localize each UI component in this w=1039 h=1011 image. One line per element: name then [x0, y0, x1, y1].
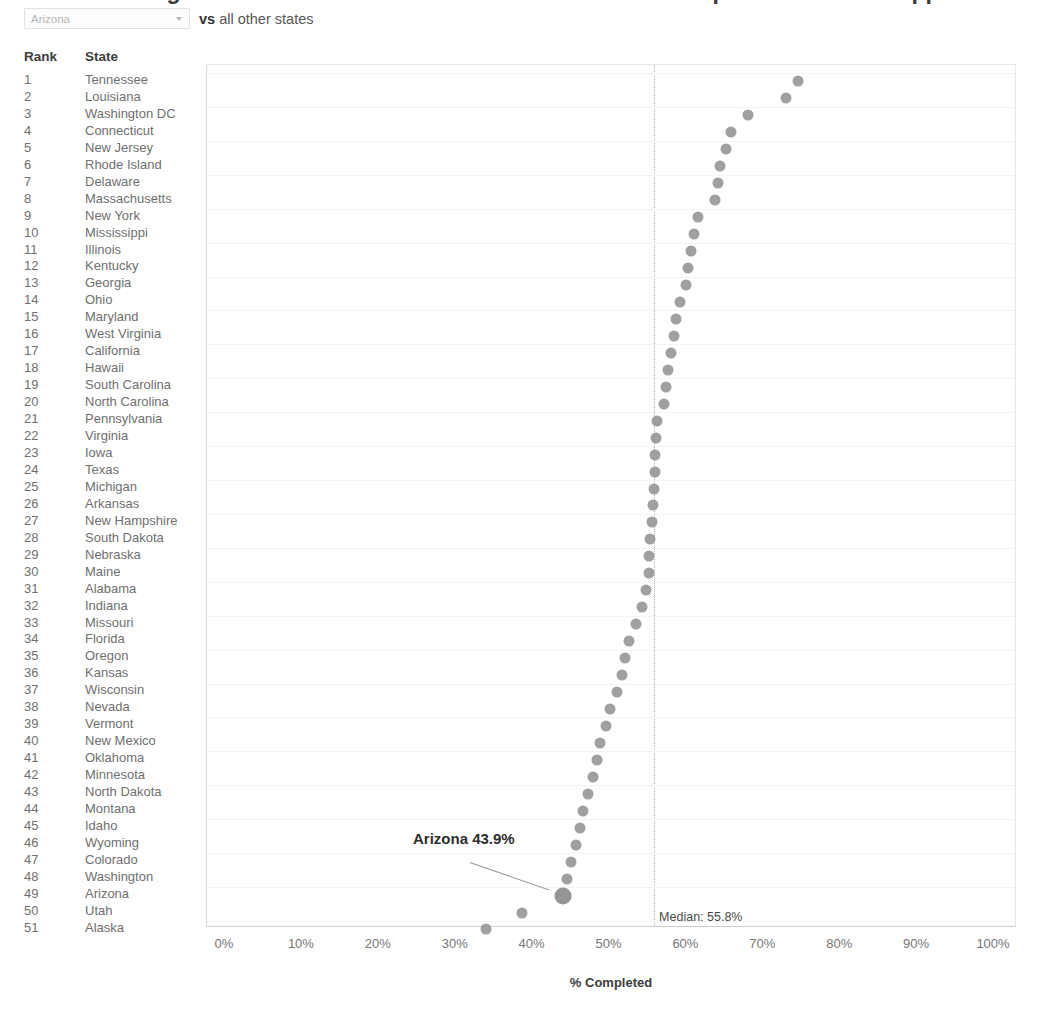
data-point[interactable]	[780, 93, 791, 104]
data-point[interactable]	[709, 195, 720, 206]
list-item[interactable]: 47Colorado	[0, 852, 206, 869]
data-point[interactable]	[692, 212, 703, 223]
list-item[interactable]: 17California	[0, 343, 206, 360]
data-point[interactable]	[643, 568, 654, 579]
list-item[interactable]: 4Connecticut	[0, 123, 206, 140]
list-item[interactable]: 24Texas	[0, 462, 206, 479]
list-item[interactable]: 48Washington	[0, 869, 206, 886]
data-point[interactable]	[659, 398, 670, 409]
list-item[interactable]: 43North Dakota	[0, 784, 206, 801]
list-item[interactable]: 21Pennsylvania	[0, 411, 206, 428]
list-item[interactable]: 31Alabama	[0, 581, 206, 598]
data-point[interactable]	[582, 788, 593, 799]
data-point[interactable]	[644, 551, 655, 562]
data-point[interactable]	[682, 263, 693, 274]
list-item[interactable]: 16West Virginia	[0, 326, 206, 343]
list-item[interactable]: 38Nevada	[0, 699, 206, 716]
data-point[interactable]	[650, 432, 661, 443]
list-item[interactable]: 28South Dakota	[0, 530, 206, 547]
data-point[interactable]	[624, 636, 635, 647]
list-item[interactable]: 35Oregon	[0, 648, 206, 665]
list-item[interactable]: 32Indiana	[0, 598, 206, 615]
list-item[interactable]: 39Vermont	[0, 716, 206, 733]
data-point[interactable]	[578, 805, 589, 816]
list-item[interactable]: 9New York	[0, 208, 206, 225]
data-point[interactable]	[641, 585, 652, 596]
data-point[interactable]	[649, 449, 660, 460]
data-point[interactable]	[686, 246, 697, 257]
data-point[interactable]	[516, 907, 527, 918]
data-point[interactable]	[661, 381, 672, 392]
list-item[interactable]: 42Minnesota	[0, 767, 206, 784]
data-point[interactable]	[566, 856, 577, 867]
list-item[interactable]: 3Washington DC	[0, 106, 206, 123]
list-item[interactable]: 41Oklahoma	[0, 750, 206, 767]
data-point[interactable]	[669, 330, 680, 341]
data-point[interactable]	[595, 737, 606, 748]
data-point[interactable]	[631, 619, 642, 630]
list-item[interactable]: 45Idaho	[0, 818, 206, 835]
data-point[interactable]	[715, 161, 726, 172]
list-item[interactable]: 33Missouri	[0, 615, 206, 632]
state-select-dropdown[interactable]: Arizona	[24, 8, 190, 29]
list-item[interactable]: 50Utah	[0, 903, 206, 920]
list-item[interactable]: 6Rhode Island	[0, 157, 206, 174]
data-point[interactable]	[574, 822, 585, 833]
list-item[interactable]: 26Arkansas	[0, 496, 206, 513]
list-item[interactable]: 36Kansas	[0, 665, 206, 682]
data-point[interactable]	[646, 517, 657, 528]
data-point[interactable]	[562, 873, 573, 884]
list-item[interactable]: 22Virginia	[0, 428, 206, 445]
data-point[interactable]	[636, 602, 647, 613]
data-point[interactable]	[588, 771, 599, 782]
data-point[interactable]	[481, 924, 492, 935]
list-item[interactable]: 7Delaware	[0, 174, 206, 191]
list-item[interactable]: 34Florida	[0, 631, 206, 648]
data-point[interactable]	[726, 127, 737, 138]
data-point-highlighted[interactable]	[554, 887, 571, 904]
data-point[interactable]	[647, 500, 658, 511]
data-point[interactable]	[649, 483, 660, 494]
data-point[interactable]	[742, 110, 753, 121]
list-item[interactable]: 18Hawaii	[0, 360, 206, 377]
list-item[interactable]: 2Louisiana	[0, 89, 206, 106]
data-point[interactable]	[666, 347, 677, 358]
list-item[interactable]: 27New Hampshire	[0, 513, 206, 530]
data-point[interactable]	[721, 144, 732, 155]
data-point[interactable]	[616, 670, 627, 681]
list-item[interactable]: 25Michigan	[0, 479, 206, 496]
data-point[interactable]	[612, 687, 623, 698]
data-point[interactable]	[662, 364, 673, 375]
data-point[interactable]	[570, 839, 581, 850]
data-point[interactable]	[792, 76, 803, 87]
list-item[interactable]: 20North Carolina	[0, 394, 206, 411]
list-item[interactable]: 14Ohio	[0, 292, 206, 309]
list-item[interactable]: 12Kentucky	[0, 258, 206, 275]
data-point[interactable]	[645, 534, 656, 545]
data-point[interactable]	[712, 178, 723, 189]
data-point[interactable]	[605, 704, 616, 715]
data-point[interactable]	[670, 313, 681, 324]
list-item[interactable]: 23Iowa	[0, 445, 206, 462]
data-point[interactable]	[675, 296, 686, 307]
data-point[interactable]	[600, 720, 611, 731]
data-point[interactable]	[649, 466, 660, 477]
list-item[interactable]: 10Mississippi	[0, 225, 206, 242]
list-item[interactable]: 30Maine	[0, 564, 206, 581]
list-item[interactable]: 29Nebraska	[0, 547, 206, 564]
data-point[interactable]	[680, 280, 691, 291]
list-item[interactable]: 51Alaska	[0, 920, 206, 937]
list-item[interactable]: 5New Jersey	[0, 140, 206, 157]
list-item[interactable]: 1Tennessee	[0, 72, 206, 89]
data-point[interactable]	[592, 754, 603, 765]
list-item[interactable]: 37Wisconsin	[0, 682, 206, 699]
data-point[interactable]	[689, 229, 700, 240]
list-item[interactable]: 46Wyoming	[0, 835, 206, 852]
list-item[interactable]: 19South Carolina	[0, 377, 206, 394]
list-item[interactable]: 49Arizona	[0, 886, 206, 903]
list-item[interactable]: 11Illinois	[0, 242, 206, 259]
list-item[interactable]: 15Maryland	[0, 309, 206, 326]
list-item[interactable]: 13Georgia	[0, 275, 206, 292]
list-item[interactable]: 8Massachusetts	[0, 191, 206, 208]
data-point[interactable]	[619, 653, 630, 664]
